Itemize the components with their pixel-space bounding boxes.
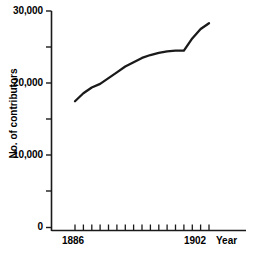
y-tick-label-0: 0 <box>0 221 43 232</box>
x-axis-title: Year <box>216 235 237 246</box>
x-tick-label-1902: 1902 <box>184 235 206 246</box>
y-axis-ticks <box>46 11 52 228</box>
y-axis-title: No. of contributors <box>8 49 19 179</box>
y-tick-label-20000: 20,000 <box>0 77 43 88</box>
x-axis-ticks <box>75 225 209 231</box>
y-tick-label-30000: 30,000 <box>0 5 43 16</box>
y-tick-label-10000: 10,000 <box>0 149 43 160</box>
x-tick-label-1886: 1886 <box>62 235 84 246</box>
line-chart: 30,000 20,000 10,000 0 1886 1902 No. of … <box>0 0 253 262</box>
data-series-line <box>75 23 209 101</box>
